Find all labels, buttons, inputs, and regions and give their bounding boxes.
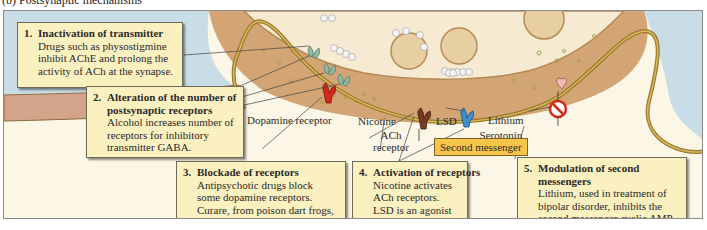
callout-body: Nicotine activates ACh receptors. LSD is…: [359, 179, 461, 219]
dopamine-receptor-label: Dopamine receptor: [247, 114, 332, 126]
callout-inactivation-of-transmitter: 1. Inactivation of transmitter Drugs suc…: [17, 22, 183, 88]
callout-heading: Blockade of receptors: [197, 166, 299, 179]
callout-number: 2.: [93, 91, 107, 116]
callout-title: 1. Inactivation of transmitter: [24, 27, 176, 40]
callout-blockade-of-receptors: 3. Blockade of receptors Antipsychotic d…: [176, 161, 346, 219]
callout-body: Drugs such as physostigmine inhibit AChE…: [24, 40, 176, 78]
callout-heading: Modulation of second messengers: [538, 162, 680, 187]
callout-heading: Inactivation of transmitter: [38, 27, 163, 40]
callout-title: 4. Activation of receptors: [359, 166, 461, 179]
callout-alteration-of-receptors: 2. Alteration of the number of postsynap…: [86, 86, 244, 158]
label-dopamine-receptor: Dopamine receptor: [247, 114, 309, 126]
callout-title: 2. Alteration of the number of postsynap…: [93, 91, 237, 116]
diagram-frame: Dopamine receptor Nicotine ACh receptor …: [3, 10, 703, 219]
callout-heading: Activation of receptors: [373, 166, 480, 179]
label-ach-receptor: ACh receptor: [366, 129, 416, 153]
callout-title: 3. Blockade of receptors: [183, 166, 339, 179]
callout-body: Alcohol increases number of receptors fo…: [93, 116, 237, 154]
label-lsd: LSD: [436, 115, 457, 127]
callout-number: 4.: [359, 166, 373, 179]
callout-title: 5. Modulation of second messengers: [524, 162, 680, 187]
callout-activation-of-receptors: 4. Activation of receptors Nicotine acti…: [352, 161, 468, 219]
figure-heading: (b) Postsynaptic mechanisms: [2, 0, 142, 8]
callout-heading: Alteration of the number of postsynaptic…: [107, 91, 237, 116]
second-messenger-box: Second messenger: [434, 138, 528, 156]
callout-number: 5.: [524, 162, 538, 187]
callout-body: Lithium, used in treatment of bipolar di…: [524, 187, 680, 219]
label-nicotine: Nicotine: [358, 115, 396, 127]
callout-body: Antipsychotic drugs block some dopamine …: [183, 179, 339, 219]
callout-number: 3.: [183, 166, 197, 179]
callout-number: 1.: [24, 27, 38, 40]
vesicle-bulge-2: [441, 28, 477, 64]
label-lithium: Lithium: [488, 114, 523, 126]
callout-modulation-of-second-messengers: 5. Modulation of second messengers Lithi…: [517, 157, 687, 219]
ach-receptor-label: ACh receptor: [373, 129, 409, 153]
